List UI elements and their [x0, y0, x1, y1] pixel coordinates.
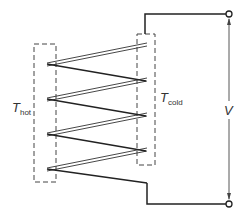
arrowhead-up-icon — [227, 18, 231, 25]
bottom-terminal — [226, 201, 232, 207]
cold-reservoir-box — [137, 34, 155, 165]
cold-temperature-label: Tcold — [160, 90, 183, 107]
hot-temperature-label: Thot — [12, 100, 32, 117]
top-terminal — [226, 11, 232, 17]
voltage-label: V — [224, 103, 234, 118]
bottom-lead-wire — [147, 183, 226, 204]
top-lead-wire — [145, 14, 226, 34]
arrowhead-down-icon — [227, 193, 231, 200]
thermopile-diagram: Thot Tcold V — [0, 0, 246, 216]
